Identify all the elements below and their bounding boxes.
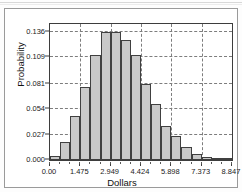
histogram-bar	[202, 157, 212, 160]
plot-area	[49, 23, 233, 161]
x-axis-minor-tick	[191, 162, 192, 164]
x-axis-minor-tick	[201, 162, 202, 164]
x-axis-tick-label: 0.00	[42, 167, 57, 176]
histogram-figure: Probability 0.0000.0270.0540.0810.1090.1…	[0, 0, 242, 192]
histogram-bar	[141, 84, 151, 160]
x-axis-minor-tick	[89, 162, 90, 164]
top-divider-secondary	[0, 4, 242, 5]
x-axis-tick-label: 8.847	[222, 167, 241, 176]
chart-card: Probability 0.0000.0270.0540.0810.1090.1…	[4, 8, 238, 188]
x-axis-title: Dollars	[5, 177, 239, 188]
histogram-bar	[90, 55, 100, 160]
x-axis-tick-label: 5.898	[161, 167, 180, 176]
x-axis-minor-tick	[69, 162, 70, 164]
x-axis-minor-tick	[59, 162, 60, 164]
y-axis-tick-label: 0.136	[26, 27, 45, 36]
y-axis-tick-label: 0.027	[26, 129, 45, 138]
x-axis-minor-tick	[140, 162, 141, 164]
histogram-bar	[70, 116, 80, 160]
x-axis-tick-label: 4.424	[131, 167, 150, 176]
x-axis-minor-tick	[150, 162, 151, 164]
x-axis-minor-tick	[221, 162, 222, 164]
y-axis-ticks: 0.0000.0270.0540.0810.1090.136	[5, 9, 49, 175]
x-axis-minor-tick	[120, 162, 121, 164]
histogram-bar	[222, 158, 232, 160]
histogram-bar	[60, 142, 70, 160]
x-axis-minor-tick	[211, 162, 212, 164]
histogram-bar	[121, 40, 131, 160]
y-axis-tick-label: 0.109	[26, 52, 45, 61]
x-axis-minor-tick	[130, 162, 131, 164]
y-axis-tick-label: 0.054	[26, 104, 45, 113]
x-axis-minor-tick	[170, 162, 171, 164]
y-axis-tick-label: 0.081	[26, 78, 45, 87]
histogram-bar	[161, 126, 171, 160]
x-axis-tick-label: 2.949	[100, 167, 119, 176]
x-axis-minor-tick	[231, 162, 232, 164]
histogram-bar	[111, 32, 121, 160]
histogram-bar	[131, 55, 141, 160]
x-axis-minor-tick	[79, 162, 80, 164]
x-axis-tick-label: 1.475	[70, 167, 89, 176]
x-axis-minor-tick	[110, 162, 111, 164]
histogram-bar	[151, 104, 161, 160]
histogram-bar	[181, 147, 191, 160]
x-axis-tick-label: 7.373	[191, 167, 210, 176]
histogram-bar	[212, 158, 222, 160]
histogram-bar	[80, 87, 90, 160]
x-axis-minor-tick	[100, 162, 101, 164]
histogram-bar	[101, 32, 111, 160]
top-divider	[0, 2, 242, 3]
x-axis-minor-tick	[160, 162, 161, 164]
x-axis-minor-tick	[180, 162, 181, 164]
gridline-vertical	[202, 24, 203, 160]
x-axis-minor-tick	[49, 162, 50, 164]
y-axis-tick-label: 0.000	[26, 155, 45, 164]
histogram-bar	[171, 136, 181, 160]
histogram-bar	[50, 156, 60, 160]
histogram-bar	[192, 154, 202, 160]
